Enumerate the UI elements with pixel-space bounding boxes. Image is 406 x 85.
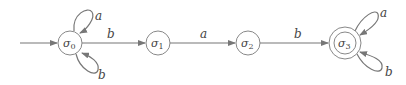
loop-s0-a-label: a (95, 9, 102, 23)
edge-s2-s3-label: b (294, 27, 302, 41)
state-s2: σ2 (236, 31, 260, 55)
state-s3-sub: 3 (346, 42, 351, 51)
state-s0-sub: 0 (71, 42, 76, 51)
state-s0: σ0 (58, 31, 82, 55)
state-s2-sub: 2 (249, 42, 254, 51)
edge-s1-s2-label: a (200, 27, 207, 41)
loop-s3-a-label: a (380, 6, 387, 20)
loop-s0-a (74, 10, 93, 33)
state-s1-sub: 1 (159, 42, 164, 51)
loop-s0-b (76, 53, 98, 73)
loop-s0-b-label: b (98, 68, 106, 82)
state-s3-accepting: σ3 (329, 27, 361, 59)
loop-s3-b-label: b (385, 65, 393, 79)
edge-s0-s1-label: b (107, 27, 115, 41)
loop-s3-b (357, 52, 382, 71)
automaton-diagram: a b b a b a b σ0 σ1 σ2 σ3 (0, 0, 406, 85)
state-s1: σ1 (146, 31, 170, 55)
loop-s3-a (355, 12, 378, 35)
